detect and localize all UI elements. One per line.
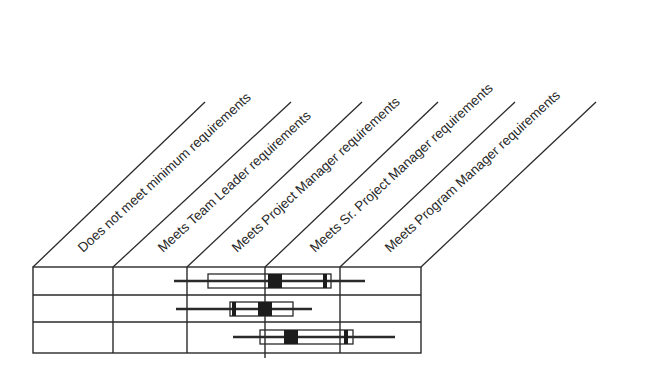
competency-diagram: Does not meet minimum requirementsMeets … xyxy=(0,0,648,370)
column-header-labels: Does not meet minimum requirementsMeets … xyxy=(75,80,563,255)
quartile-marker xyxy=(344,330,348,344)
header-diagonal-line xyxy=(33,102,205,267)
box-plots xyxy=(174,274,395,344)
box-plot-row xyxy=(176,302,312,316)
box-plot-row xyxy=(174,274,365,288)
median-marker xyxy=(284,330,298,344)
column-header-label: Meets Team Leader requirements xyxy=(155,108,314,255)
median-marker xyxy=(258,302,272,316)
median-marker xyxy=(268,274,282,288)
box-plot-row xyxy=(233,330,395,344)
column-header-label: Does not meet minimum requirements xyxy=(75,89,254,255)
quartile-marker xyxy=(232,302,236,316)
column-header-label: Meets Project Manager requirements xyxy=(229,94,403,255)
quartile-marker xyxy=(323,274,327,288)
